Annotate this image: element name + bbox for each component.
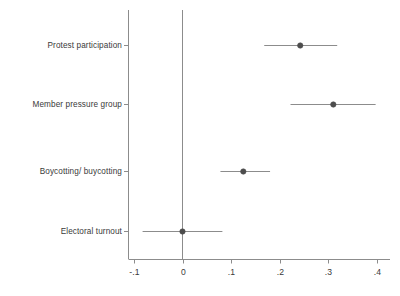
estimate-marker	[180, 229, 185, 234]
category-label: Protest participation	[48, 41, 122, 50]
y-axis-tick-marks	[124, 46, 129, 232]
x-tick-label: 0	[181, 267, 186, 277]
category-label: Boycotting/ buycotting	[40, 167, 122, 176]
estimate-series	[143, 43, 376, 234]
category-label: Electoral turnout	[61, 227, 122, 236]
x-tick-label: .2	[277, 267, 284, 277]
x-axis-tick-marks	[135, 260, 378, 264]
estimate-marker	[241, 169, 246, 174]
estimate-marker	[331, 102, 336, 107]
x-tick-label: .1	[228, 267, 235, 277]
x-tick-label: -.1	[129, 267, 139, 277]
estimate-marker	[298, 43, 303, 48]
x-tick-label: .3	[325, 267, 332, 277]
x-tick-label: .4	[374, 267, 381, 277]
coefficient-plot: Protest participationMember pressure gro…	[0, 0, 400, 296]
category-label: Member pressure group	[33, 100, 122, 109]
